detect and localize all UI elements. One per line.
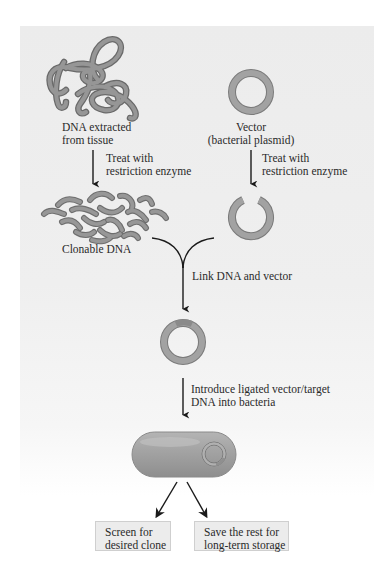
tangled-dna-icon xyxy=(50,39,136,118)
source-dna-label-line1: DNA extracted xyxy=(62,121,131,134)
arrow-to-storage xyxy=(187,482,205,514)
source-dna-label: DNA extracted from tissue xyxy=(62,121,131,146)
plasmid-vector-icon xyxy=(232,73,270,111)
cloning-diagram-artwork xyxy=(0,0,392,582)
outcome-screen-line2: desired clone xyxy=(105,539,170,552)
vector-label-line1: Vector xyxy=(208,121,295,134)
outcome-storage-line1: Save the rest for xyxy=(204,526,288,539)
outcome-screen-line1: Screen for xyxy=(105,526,170,539)
arrow-to-screen xyxy=(158,482,177,514)
dna-fragments-icon xyxy=(44,194,166,242)
recombinant-plasmid-icon xyxy=(164,322,202,361)
source-dna-label-line2: from tissue xyxy=(62,134,131,147)
introduce-label: Introduce ligated vector/target DNA into… xyxy=(191,383,330,408)
outcome-box-screen: Screen for desired clone xyxy=(95,521,171,551)
vector-label: Vector (bacterial plasmid) xyxy=(208,121,295,146)
vector-label-line2: (bacterial plasmid) xyxy=(208,134,295,147)
bacterium-icon xyxy=(132,432,236,477)
cut-plasmid-icon xyxy=(232,200,270,236)
introduce-label-line2: DNA into bacteria xyxy=(191,396,330,409)
outcome-storage-line2: long-term storage xyxy=(204,539,288,552)
right-restriction-label: Treat with restriction enzyme xyxy=(262,152,347,177)
left-restriction-label: Treat with restriction enzyme xyxy=(106,152,191,177)
left-restriction-line2: restriction enzyme xyxy=(106,165,191,178)
right-restriction-line2: restriction enzyme xyxy=(262,165,347,178)
clonable-dna-label: Clonable DNA xyxy=(62,243,131,256)
outcome-box-storage: Save the rest for long-term storage xyxy=(194,521,289,551)
left-restriction-line1: Treat with xyxy=(106,152,191,165)
link-label: Link DNA and vector xyxy=(192,270,292,283)
introduce-label-line1: Introduce ligated vector/target xyxy=(191,383,330,396)
right-restriction-line1: Treat with xyxy=(262,152,347,165)
